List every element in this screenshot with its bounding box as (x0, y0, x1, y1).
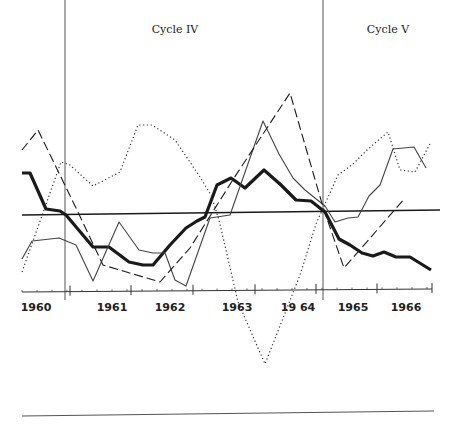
series-lines (22, 93, 431, 364)
cycle-dividers (65, 0, 323, 300)
year-label-3: 1963 (222, 301, 253, 314)
cycle-label-1: Cycle V (367, 23, 410, 36)
year-label-1: 1961 (97, 301, 128, 314)
x-axis (22, 283, 432, 296)
year-label-5: 1965 (338, 301, 369, 314)
cycle-labels: Cycle IVCycle V (152, 23, 410, 36)
year-label-0: 1960 (21, 301, 52, 314)
year-label-2: 1962 (155, 301, 186, 314)
series-dotted (22, 125, 430, 364)
x-tick-labels: 196019611962196319 6419651966 (21, 301, 422, 314)
year-label-4: 19 64 (281, 301, 316, 314)
year-label-6: 1966 (391, 301, 422, 314)
cycle-label-0: Cycle IV (152, 23, 200, 36)
series-thin-solid (22, 121, 426, 286)
series-dashed (22, 93, 405, 282)
x-axis-line (22, 289, 432, 292)
bottom-rule (22, 411, 434, 416)
cycle-chart: Cycle IVCycle V 196019611962196319 64196… (0, 0, 456, 426)
